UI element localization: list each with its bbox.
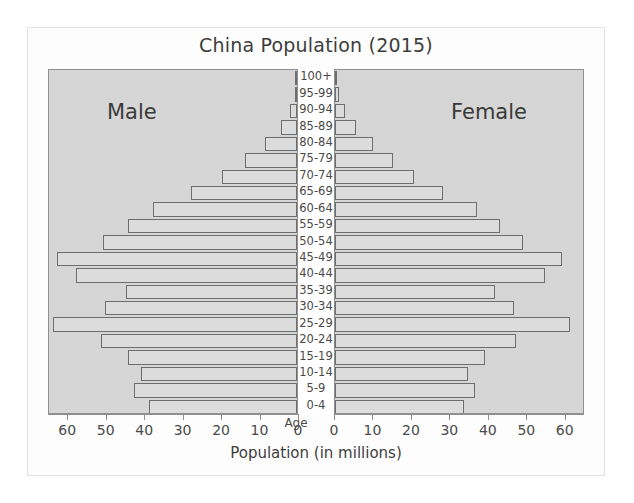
male-bar-45-49 [57,252,297,266]
female-bar-75-79 [335,153,393,167]
bar-row [49,366,297,382]
bar-row [335,333,583,349]
x-tick-label-left-20: 20 [212,422,230,438]
bar-row [335,185,583,201]
bar-row [335,169,583,185]
x-tick-label-left-40: 40 [135,422,153,438]
chart-card: China Population (2015) Male 100+95-9990… [27,27,605,476]
bar-row [49,152,297,168]
male-bar-25-29 [53,317,297,331]
male-bar-20-24 [101,334,297,348]
female-bar-95-99 [335,87,339,101]
female-bar-100plus [335,71,337,85]
female-bar-5-9 [335,383,475,397]
female-bar-20-24 [335,334,516,348]
bar-row [335,251,583,267]
male-bar-95-99 [295,87,297,101]
bar-row [49,399,297,414]
x-tick-right-50 [526,414,527,420]
age-label-55-59: 55-59 [298,219,334,231]
male-bar-65-69 [191,186,297,200]
female-bar-65-69 [335,186,443,200]
bar-row [49,349,297,365]
x-tick-right-30 [449,414,450,420]
x-tick-label-right-30: 30 [440,422,458,438]
age-label-65-69: 65-69 [298,186,334,198]
male-bar-35-39 [126,285,297,299]
bar-row [49,218,297,234]
x-axis: 60504030201000102030405060 [48,414,584,415]
female-bar-90-94 [335,104,345,118]
female-bar-70-74 [335,170,414,184]
female-bar-25-29 [335,317,570,331]
bar-row [335,267,583,283]
bar-row [49,169,297,185]
age-label-10-14: 10-14 [298,367,334,379]
x-tick-left-20 [221,414,222,420]
bar-row [49,201,297,217]
age-label-50-54: 50-54 [298,236,334,248]
bar-row [335,136,583,152]
bar-row [335,382,583,398]
x-tick-right-40 [488,414,489,420]
x-tick-label-right-50: 50 [517,422,535,438]
male-bar-100plus [295,71,297,85]
age-label-20-24: 20-24 [298,334,334,346]
bar-row [49,119,297,135]
male-panel: Male [48,69,298,414]
female-bar-35-39 [335,285,495,299]
female-bar-30-34 [335,301,514,315]
bar-row [49,234,297,250]
age-label-100plus: 100+ [298,71,334,83]
male-bar-15-19 [128,350,297,364]
bar-row [49,251,297,267]
female-bar-50-54 [335,235,523,249]
bar-row [335,86,583,102]
x-tick-right-60 [565,414,566,420]
bar-row [335,284,583,300]
chart-title: China Population (2015) [28,34,604,56]
bar-row [335,300,583,316]
male-bar-5-9 [134,383,297,397]
bar-row [49,284,297,300]
age-label-45-49: 45-49 [298,252,334,264]
pyramid-plot-area: Male 100+95-9990-9485-8980-8475-7970-746… [48,69,584,414]
male-bar-60-64 [153,202,297,216]
x-tick-right-0 [334,414,335,420]
bar-row [335,201,583,217]
age-label-30-34: 30-34 [298,301,334,313]
age-label-35-39: 35-39 [298,285,334,297]
x-tick-label-left-30: 30 [174,422,192,438]
male-bar-75-79 [245,153,297,167]
female-bar-85-89 [335,120,356,134]
bar-row [335,316,583,332]
female-bar-80-84 [335,137,373,151]
bar-row [335,349,583,365]
x-tick-right-20 [411,414,412,420]
female-bar-60-64 [335,202,477,216]
age-label-95-99: 95-99 [298,88,334,100]
bar-row [49,267,297,283]
bar-row [335,234,583,250]
female-bar-15-19 [335,350,485,364]
x-tick-left-30 [183,414,184,420]
x-tick-label-right-40: 40 [479,422,497,438]
x-tick-left-60 [67,414,68,420]
x-tick-label-right-20: 20 [402,422,420,438]
bar-row [49,103,297,119]
x-axis-title: Population (in millions) [28,444,604,462]
female-bar-10-14 [335,367,468,381]
male-bar-90-94 [290,104,297,118]
bar-row [335,218,583,234]
age-label-15-19: 15-19 [298,351,334,363]
bar-row [335,119,583,135]
age-label-80-84: 80-84 [298,137,334,149]
female-bar-40-44 [335,268,545,282]
bar-row [335,399,583,414]
bar-row [335,152,583,168]
bar-row [49,300,297,316]
bar-row [49,382,297,398]
x-tick-left-50 [106,414,107,420]
male-bar-50-54 [103,235,297,249]
age-label-75-79: 75-79 [298,153,334,165]
